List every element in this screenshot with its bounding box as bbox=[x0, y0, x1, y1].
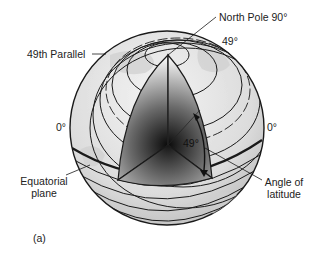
latitude-diagram: North Pole 90° 49° 49th Parallel 0° 0° 4… bbox=[0, 0, 322, 254]
parallel-49-label: 49th Parallel bbox=[27, 48, 85, 60]
latitude-49-top-label: 49° bbox=[222, 35, 238, 47]
north-pole-label: North Pole 90° bbox=[219, 11, 287, 23]
wedge-angle-label: 49° bbox=[183, 137, 199, 149]
angle-of-latitude-label: Angle of latitude bbox=[259, 176, 309, 200]
equator-right-label: 0° bbox=[267, 121, 277, 133]
panel-label: (a) bbox=[33, 232, 46, 244]
angle-of-latitude-line1: Angle of bbox=[265, 176, 304, 188]
equator-left-label: 0° bbox=[56, 121, 66, 133]
equatorial-plane-line1: Equatorial bbox=[20, 175, 67, 187]
angle-of-latitude-line2: latitude bbox=[267, 188, 301, 200]
equatorial-plane-line2: plane bbox=[31, 187, 57, 199]
equatorial-plane-label: Equatorial plane bbox=[17, 175, 71, 199]
